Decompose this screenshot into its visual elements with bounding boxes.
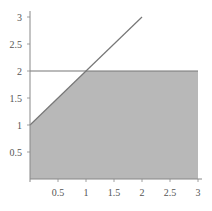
- x-tick-label: 0.5: [52, 187, 65, 198]
- x-tick-label: 2.5: [164, 187, 177, 198]
- x-tick-label: 2: [140, 187, 145, 198]
- shaded-region: [30, 71, 198, 179]
- x-tick-label: 1: [84, 187, 89, 198]
- y-tick-label: 0.5: [10, 147, 23, 158]
- y-tick-label: 2.5: [10, 39, 23, 50]
- x-tick-label: 3: [196, 187, 201, 198]
- y-axis-ticks: 0.511.522.53: [10, 12, 31, 158]
- x-tick-label: 1.5: [108, 187, 121, 198]
- y-tick-label: 1.5: [10, 93, 23, 104]
- y-tick-label: 2: [17, 66, 22, 77]
- feasible-region-area: [30, 71, 198, 179]
- x-axis-ticks: 0.511.522.53: [52, 179, 201, 198]
- y-tick-label: 1: [17, 120, 22, 131]
- y-tick-label: 3: [17, 12, 22, 23]
- chart-plot: 0.511.522.53 0.511.522.53: [0, 0, 212, 211]
